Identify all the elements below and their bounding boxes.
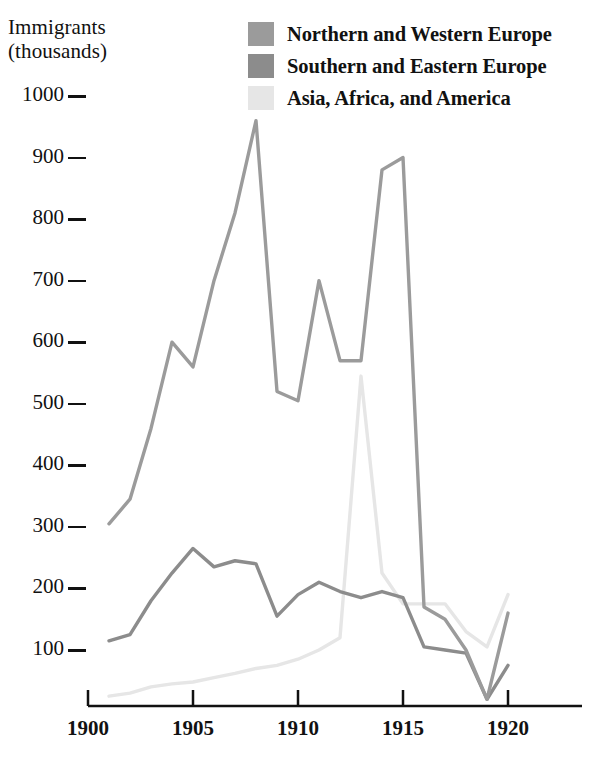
series-line-asia-africa-america [109,376,508,696]
chart-figure: Immigrants (thousands) Northern and West… [0,0,593,759]
series-line-northern-western-europe [109,121,508,700]
plot-area [0,0,593,759]
